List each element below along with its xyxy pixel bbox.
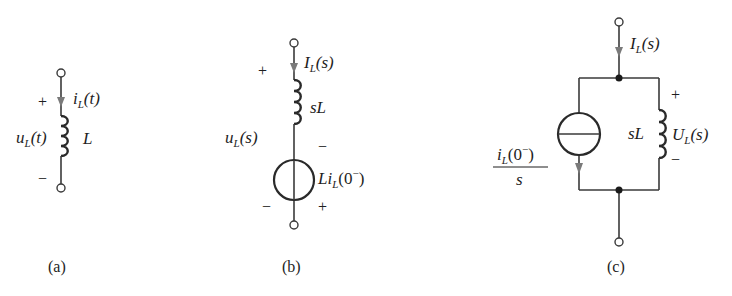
bottom-node bbox=[616, 187, 623, 194]
terminal-top bbox=[57, 69, 65, 77]
inductor-coil-icon bbox=[659, 110, 666, 158]
plus-sign: + bbox=[671, 86, 680, 103]
panel-c-parallel-model: IL(s) + − UL(s) sL iL(0−) s (c) bbox=[493, 18, 709, 276]
fraction-numerator: iL(0−) bbox=[497, 143, 534, 166]
current-label-IL-s: IL(s) bbox=[629, 34, 660, 55]
terminal-top bbox=[290, 39, 298, 47]
voltage-label-uL-s: uL(s) bbox=[225, 128, 258, 149]
terminal-top bbox=[615, 18, 623, 26]
current-label-IL-s: IL(s) bbox=[303, 53, 334, 74]
minus-sign: − bbox=[38, 170, 47, 187]
inductor-s-domain-models-figure: + − iL(t) uL(t) L (a) + − − + IL(s) uL(s… bbox=[0, 0, 732, 296]
current-arrow-icon bbox=[57, 97, 65, 107]
plus-sign: + bbox=[38, 93, 47, 110]
inductor-coil-icon bbox=[61, 116, 68, 156]
caption-b: (b) bbox=[282, 258, 301, 276]
source-current-arrow-icon bbox=[575, 163, 583, 174]
terminal-bottom bbox=[615, 238, 623, 246]
source-plus-sign: + bbox=[318, 198, 327, 215]
terminal-bottom bbox=[57, 184, 65, 192]
plus-sign: + bbox=[258, 62, 267, 79]
current-arrow-icon bbox=[290, 63, 298, 73]
panel-b-series-model: + − − + IL(s) uL(s) sL LiL(0−) (b) bbox=[225, 39, 364, 276]
current-label-iL-t: iL(t) bbox=[73, 89, 100, 110]
impedance-label-sL: sL bbox=[310, 98, 326, 117]
minus-sign: − bbox=[671, 151, 680, 168]
caption-c: (c) bbox=[607, 258, 625, 276]
caption-a: (a) bbox=[48, 258, 66, 276]
panel-a-time-domain-inductor: + − iL(t) uL(t) L (a) bbox=[16, 69, 100, 276]
source-minus-sign: − bbox=[318, 138, 327, 155]
inductance-label: L bbox=[82, 129, 92, 148]
top-node bbox=[616, 75, 623, 82]
voltage-label-UL-s: UL(s) bbox=[672, 125, 709, 146]
minus-sign: − bbox=[262, 198, 271, 215]
impedance-label-sL: sL bbox=[628, 124, 644, 143]
inductor-coil-icon bbox=[294, 80, 301, 124]
source-label-fraction: iL(0−) s bbox=[493, 143, 548, 189]
source-label-LiL0: LiL(0−) bbox=[317, 167, 364, 190]
current-arrow-icon bbox=[615, 47, 623, 57]
terminal-bottom bbox=[290, 221, 298, 229]
voltage-label-uL-t: uL(t) bbox=[16, 128, 47, 149]
fraction-denominator: s bbox=[516, 170, 523, 189]
